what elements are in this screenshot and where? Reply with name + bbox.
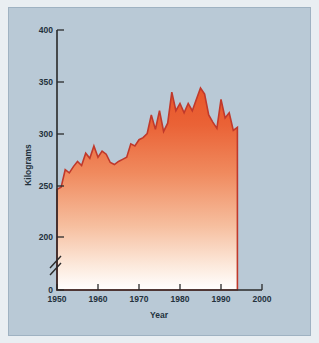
xtick-label-1980: 1980 — [171, 294, 190, 304]
chart-page: 400 350 300 250 200 0 1950 1960 1970 198… — [0, 0, 319, 343]
ytick-label-250: 250 — [39, 181, 53, 191]
xtick-label-2000: 2000 — [253, 294, 272, 304]
plot-area — [57, 30, 262, 290]
ytick-label-350: 350 — [39, 77, 53, 87]
chart-canvas: 400 350 300 250 200 0 1950 1960 1970 198… — [0, 0, 319, 343]
ytick-labels: 400 350 300 250 200 0 — [39, 25, 53, 295]
xtick-label-1970: 1970 — [130, 294, 149, 304]
x-axis-title: Year — [150, 310, 169, 320]
ytick-label-200: 200 — [39, 232, 53, 242]
xtick-label-1960: 1960 — [89, 294, 108, 304]
ytick-label-400: 400 — [39, 25, 53, 35]
xtick-label-1950: 1950 — [48, 294, 67, 304]
xtick-labels: 1950 1960 1970 1980 1990 2000 — [48, 294, 272, 304]
ytick-label-300: 300 — [39, 129, 53, 139]
y-axis-title: Kilograms — [23, 144, 33, 186]
xtick-label-1990: 1990 — [212, 294, 231, 304]
